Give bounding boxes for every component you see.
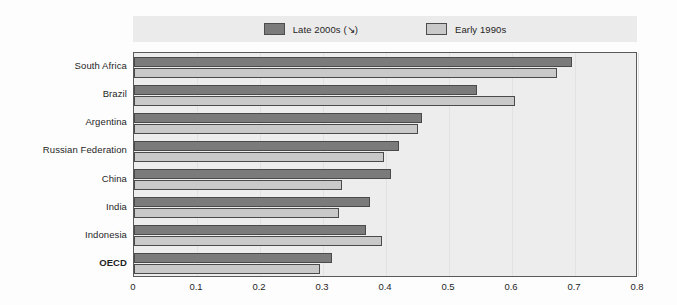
bar-row <box>134 222 636 250</box>
y-axis-label: South Africa <box>0 60 127 71</box>
bar[interactable] <box>134 197 370 207</box>
chart-legend: Late 2000s (↘) Early 1990s <box>133 16 637 42</box>
bar[interactable] <box>134 225 366 235</box>
bar-row <box>134 109 636 137</box>
legend-item-late-2000s[interactable]: Late 2000s (↘) <box>264 23 358 35</box>
bar[interactable] <box>134 96 515 106</box>
y-axis-label: Indonesia <box>0 229 127 240</box>
bar[interactable] <box>134 180 342 190</box>
y-axis-label: OECD <box>0 257 127 268</box>
y-axis-label: Russian Federation <box>0 144 127 155</box>
bar-rows <box>134 53 636 276</box>
bar[interactable] <box>134 236 382 246</box>
plot-area <box>133 52 637 277</box>
y-axis-label: Argentina <box>0 116 127 127</box>
x-axis-tick-label: 0 <box>130 281 135 292</box>
bar[interactable] <box>134 124 418 134</box>
legend-label-early-1990s: Early 1990s <box>455 24 506 35</box>
chart-figure: Late 2000s (↘) Early 1990s South AfricaB… <box>0 0 677 305</box>
bar[interactable] <box>134 264 320 274</box>
bar-row <box>134 137 636 165</box>
bar-row <box>134 53 636 81</box>
y-axis-labels: South AfricaBrazilArgentinaRussian Feder… <box>0 52 127 277</box>
bar[interactable] <box>134 169 391 179</box>
bar[interactable] <box>134 85 477 95</box>
bar[interactable] <box>134 141 399 151</box>
x-axis-tick-label: 0.3 <box>315 281 328 292</box>
x-axis-tick-label: 0.7 <box>567 281 580 292</box>
bar[interactable] <box>134 113 422 123</box>
y-axis-label: India <box>0 201 127 212</box>
y-axis-label: China <box>0 173 127 184</box>
bar-row <box>134 250 636 278</box>
bar[interactable] <box>134 68 557 78</box>
x-axis-ticks: 00.10.20.30.40.50.60.70.8 <box>133 281 637 297</box>
bar-row <box>134 194 636 222</box>
legend-swatch-late-2000s <box>264 23 285 35</box>
gridline <box>638 53 639 276</box>
bar[interactable] <box>134 208 339 218</box>
legend-item-early-1990s[interactable]: Early 1990s <box>426 23 506 35</box>
bar-row <box>134 81 636 109</box>
bar-row <box>134 166 636 194</box>
legend-label-late-2000s: Late 2000s (↘) <box>293 24 358 35</box>
x-axis-tick-label: 0.4 <box>378 281 391 292</box>
x-axis-tick-label: 0.2 <box>252 281 265 292</box>
legend-swatch-early-1990s <box>426 23 447 35</box>
bar[interactable] <box>134 253 332 263</box>
x-axis-tick-label: 0.1 <box>189 281 202 292</box>
bar[interactable] <box>134 152 384 162</box>
x-axis-tick-label: 0.6 <box>504 281 517 292</box>
x-axis-tick-label: 0.8 <box>630 281 643 292</box>
x-axis-tick-label: 0.5 <box>441 281 454 292</box>
y-axis-label: Brazil <box>0 88 127 99</box>
bar[interactable] <box>134 57 572 67</box>
